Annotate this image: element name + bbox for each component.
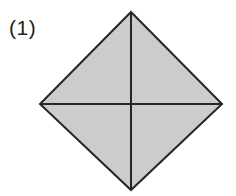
figure-number-label: (1) [9, 17, 36, 39]
figure-canvas: (1) [0, 0, 236, 196]
